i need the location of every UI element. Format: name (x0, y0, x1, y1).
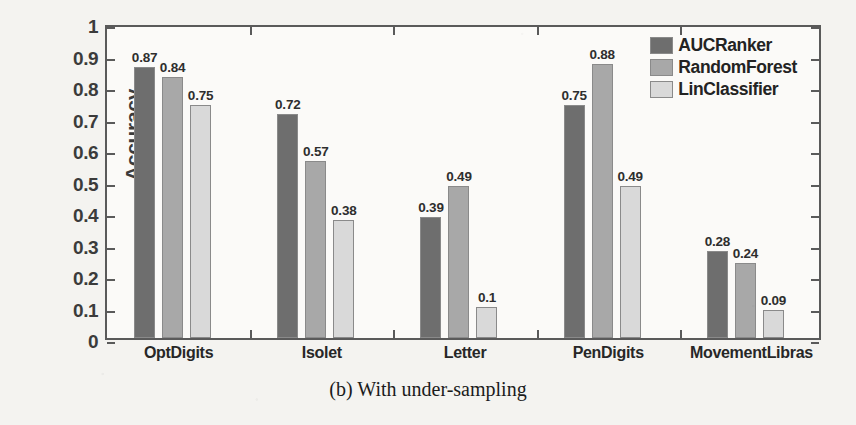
y-tick-mark (107, 342, 115, 344)
bar[interactable]: 0.09 (763, 310, 784, 338)
bar[interactable]: 0.49 (620, 186, 641, 338)
bar-value-label: 0.57 (303, 144, 328, 159)
bar[interactable]: 0.87 (134, 67, 155, 338)
bar-value-label: 0.88 (589, 47, 614, 62)
y-tick-label: 0.4 (73, 205, 98, 227)
bar-value-label: 0.49 (617, 169, 642, 184)
y-tick-label: 1 (88, 16, 98, 38)
legend-item[interactable]: RandomForest (650, 57, 797, 78)
bar[interactable]: 0.49 (448, 186, 469, 338)
bar[interactable]: 0.1 (476, 307, 497, 338)
bar[interactable]: 0.28 (707, 251, 728, 338)
y-tick-label: 0.7 (73, 111, 98, 133)
y-tick-label: 0 (88, 331, 98, 353)
bar-value-label: 0.84 (160, 60, 185, 75)
y-tick-label: 0.1 (73, 300, 98, 322)
bar-value-label: 0.75 (188, 88, 213, 103)
y-tick-label: 0.8 (73, 79, 98, 101)
bar[interactable]: 0.24 (735, 263, 756, 338)
y-tick-label: 0.2 (73, 268, 98, 290)
bar-value-label: 0.72 (275, 97, 300, 112)
legend-label: RandomForest (678, 57, 797, 78)
bar-value-label: 0.87 (132, 50, 157, 65)
bar[interactable]: 0.75 (564, 105, 585, 338)
y-tick-label: 0.5 (73, 174, 98, 196)
y-tick-label: 0.9 (73, 48, 98, 70)
legend-swatch-icon (650, 81, 673, 98)
bar-group: 0.870.840.75OptDigits (107, 27, 250, 338)
bar-value-label: 0.75 (561, 88, 586, 103)
bar[interactable]: 0.57 (305, 161, 326, 338)
legend-label: AUCRanker (678, 35, 772, 56)
bar-value-label: 0.24 (733, 246, 758, 261)
bar[interactable]: 0.75 (190, 105, 211, 338)
bar-group: 0.720.570.38Isolet (250, 27, 393, 338)
x-axis-category-label: Letter (444, 344, 487, 362)
figure: Accuracy 00.10.20.30.40.50.60.70.80.91 0… (0, 0, 856, 425)
x-axis-category-label: MovementLibras (690, 344, 813, 362)
bar-value-label: 0.49 (446, 169, 471, 184)
bar-value-label: 0.1 (478, 290, 496, 305)
legend-swatch-icon (650, 59, 673, 76)
chart-legend: AUCRankerRandomForestLinClassifier (650, 35, 797, 100)
bar-value-label: 0.28 (705, 234, 730, 249)
bar-value-label: 0.09 (761, 293, 786, 308)
bar[interactable]: 0.72 (277, 114, 298, 338)
chart-plot-area: Accuracy 00.10.20.30.40.50.60.70.80.91 0… (105, 25, 821, 340)
bar[interactable]: 0.84 (162, 77, 183, 338)
legend-swatch-icon (650, 37, 673, 54)
bar[interactable]: 0.38 (333, 220, 354, 338)
bar-value-label: 0.38 (331, 203, 356, 218)
y-tick-label: 0.6 (73, 142, 98, 164)
bar[interactable]: 0.88 (592, 64, 613, 338)
legend-label: LinClassifier (678, 79, 778, 100)
bar-value-label: 0.39 (418, 200, 443, 215)
x-axis-category-label: OptDigits (144, 344, 213, 362)
bar[interactable]: 0.39 (420, 217, 441, 338)
legend-item[interactable]: LinClassifier (650, 79, 797, 100)
x-axis-category-label: PenDigits (573, 344, 644, 362)
figure-caption: (b) With under-sampling (0, 378, 856, 401)
legend-item[interactable]: AUCRanker (650, 35, 797, 56)
x-axis-category-label: Isolet (302, 344, 342, 362)
y-tick-label: 0.3 (73, 237, 98, 259)
bar-group: 0.390.490.1Letter (393, 27, 536, 338)
